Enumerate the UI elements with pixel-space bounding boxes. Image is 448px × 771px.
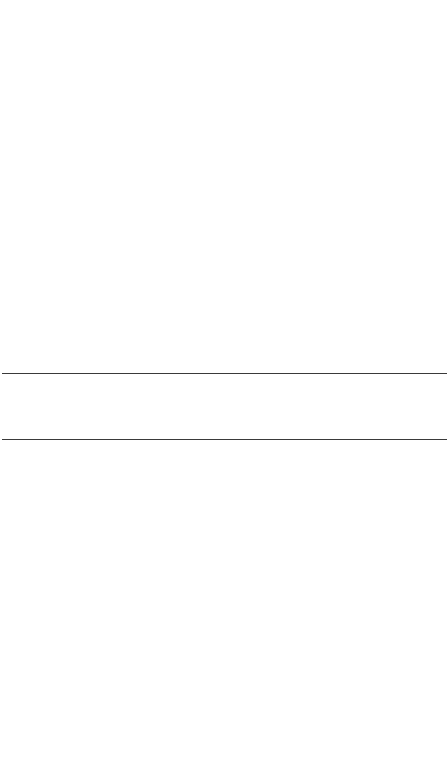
empty-content-region (2, 374, 447, 439)
horizontal-rule-bottom (2, 439, 447, 440)
blank-page (0, 0, 448, 771)
